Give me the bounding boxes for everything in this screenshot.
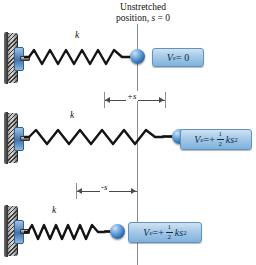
fraction-numerator-compressed: 1 [168,224,172,231]
spring-potential-energy-diagram: Unstretched position, s = 0 k Ve = 0 +s … [0,0,256,265]
energy-sign-stretched: + [209,134,215,145]
energy-sign-compressed: + [158,227,164,238]
equation-box-compressed: Ve = +12ks2 [128,222,202,243]
fraction-denominator-compressed: 2 [168,234,172,241]
dimension-positive-s: +s [104,92,166,108]
spring-unstretched [24,47,132,67]
energy-term-stretched: ks [226,134,234,145]
heading-line-1: Unstretched [95,2,191,13]
heading-line-2: position, s = 0 [95,13,191,24]
dimension-label-positive-s: +s [126,91,138,101]
dimension-negative-s: -s [76,183,138,199]
equation-box-stretched: Ve = +12ks2 [180,129,252,150]
fraction-numerator-stretched: 1 [219,131,223,138]
dimension-label-negative-s: -s [100,182,109,192]
stiffness-label-unstretched: k [75,30,79,40]
energy-exponent-compressed: 2 [183,229,187,237]
spring-compressed [24,222,106,242]
diagram-heading: Unstretched position, s = 0 [95,2,191,24]
block-ball-compressed [110,224,125,239]
stiffness-label-stretched: k [70,110,74,120]
block-ball-unstretched [130,49,145,64]
energy-relation-unstretched: = 0 [176,52,189,63]
energy-fraction-stretched: 12 [217,131,224,148]
heading-equals-zero: = 0 [155,13,170,23]
fraction-denominator-stretched: 2 [219,141,223,148]
spring-stretched [24,127,164,147]
equation-box-unstretched: Ve = 0 [152,48,204,67]
energy-fraction-compressed: 12 [166,224,173,241]
stiffness-label-compressed: k [52,205,56,215]
energy-exponent-stretched: 2 [234,136,238,144]
energy-term-compressed: ks [175,227,183,238]
heading-position-prefix: position, [116,13,151,23]
